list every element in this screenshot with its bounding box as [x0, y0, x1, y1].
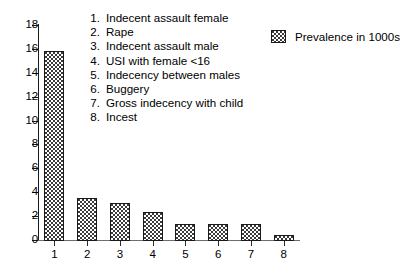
category-legend-label: USI with female <16: [106, 54, 210, 68]
category-legend-label: Rape: [106, 25, 134, 39]
category-legend-item: 3.Indecent assault male: [83, 39, 258, 53]
bar: [77, 198, 97, 241]
y-axis-tick-label: 12: [8, 91, 38, 102]
category-legend-number: 6.: [83, 82, 106, 96]
category-legend-number: 7.: [83, 96, 106, 110]
category-legend-number: 2.: [83, 25, 106, 39]
y-axis-tick-label: 8: [8, 138, 38, 149]
category-legend-item: 1.Indecent assault female: [83, 11, 258, 25]
series-legend: Prevalence in 1000s: [271, 30, 400, 43]
category-legend-number: 3.: [83, 39, 106, 53]
category-legend-item: 5.Indecency between males: [83, 68, 258, 82]
x-axis-tick: [120, 241, 121, 246]
x-axis-tick-label: 7: [240, 248, 262, 260]
x-axis-tick-label: 8: [273, 248, 295, 260]
x-axis-tick-label: 3: [109, 248, 131, 260]
bar: [143, 212, 163, 241]
x-axis-tick-label: 2: [76, 248, 98, 260]
category-legend-item: 6.Buggery: [83, 82, 258, 96]
x-axis-tick: [251, 241, 252, 246]
y-axis-tick-label: 18: [8, 19, 38, 30]
category-legend-item: 2.Rape: [83, 25, 258, 39]
pattern-swatch-icon: [271, 30, 286, 43]
y-axis-tick-label: 16: [8, 43, 38, 54]
bar: [44, 51, 64, 241]
category-legend-label: Buggery: [106, 82, 149, 96]
x-axis-tick: [185, 241, 186, 246]
y-axis-tick-label: 10: [8, 115, 38, 126]
x-axis-tick-label: 4: [142, 248, 164, 260]
x-axis-tick-label: 5: [174, 248, 196, 260]
bar: [241, 224, 261, 241]
category-legend-label: Incest: [106, 110, 137, 124]
y-axis-tick-label: 6: [8, 162, 38, 173]
y-axis-tick-label-wrap: 14: [0, 67, 38, 78]
y-axis-tick-label-wrap: 10: [0, 115, 38, 126]
category-legend: 1.Indecent assault female2.Rape3.Indecen…: [83, 11, 258, 125]
category-legend-number: 1.: [83, 11, 106, 25]
y-axis-tick-label-wrap: 6: [0, 162, 38, 173]
y-axis-tick-label-wrap: 16: [0, 43, 38, 54]
x-axis-tick: [284, 241, 285, 246]
category-legend-item: 4.USI with female <16: [83, 54, 258, 68]
x-axis-tick: [87, 241, 88, 246]
category-legend-label: Indecent assault female: [106, 11, 228, 25]
category-legend-number: 5.: [83, 68, 106, 82]
series-legend-label: Prevalence in 1000s: [295, 30, 400, 43]
x-axis-tick: [153, 241, 154, 246]
category-legend-number: 8.: [83, 110, 106, 124]
y-axis-tick-label-wrap: 4: [0, 186, 38, 197]
category-legend-label: Indecent assault male: [106, 39, 219, 53]
y-axis-tick-label: 14: [8, 67, 38, 78]
y-axis-tick-label: 0: [8, 234, 38, 245]
bar: [208, 224, 228, 241]
y-axis-tick-label-wrap: 18: [0, 19, 38, 30]
bar: [110, 203, 130, 241]
y-axis-tick-label: 4: [8, 186, 38, 197]
category-legend-number: 4.: [83, 54, 106, 68]
x-axis-tick-label: 6: [207, 248, 229, 260]
category-legend-label: Indecency between males: [106, 68, 240, 82]
y-axis-tick-label-wrap: 2: [0, 210, 38, 221]
bar: [175, 224, 195, 241]
y-axis-tick-label: 2: [8, 210, 38, 221]
x-axis-tick-label: 1: [43, 248, 65, 260]
y-axis-tick-label-wrap: 0: [0, 234, 38, 245]
category-legend-item: 8.Incest: [83, 110, 258, 124]
y-axis-tick-label-wrap: 12: [0, 91, 38, 102]
y-axis-tick-label-wrap: 8: [0, 138, 38, 149]
x-axis-tick: [218, 241, 219, 246]
category-legend-label: Gross indecency with child: [106, 96, 243, 110]
category-legend-item: 7.Gross indecency with child: [83, 96, 258, 110]
x-axis-tick: [54, 241, 55, 246]
bar: [274, 235, 294, 241]
